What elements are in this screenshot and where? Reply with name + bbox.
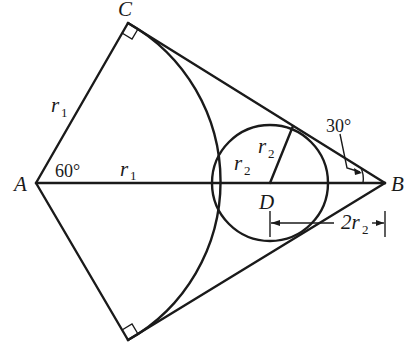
segment-CB <box>128 23 385 183</box>
label-r1-side-sub: 1 <box>61 105 68 120</box>
label-r2-radius-sub: 2 <box>268 146 275 161</box>
label-D: D <box>258 190 274 214</box>
dim-arrowhead-right <box>376 220 384 226</box>
label-A: A <box>12 172 27 196</box>
segment-lower-B <box>128 183 385 340</box>
segment-AC <box>36 23 128 183</box>
label-dim-2r2-sub: 2 <box>362 222 369 237</box>
label-angle-A: 60° <box>55 161 80 181</box>
label-r2-left-sub: 2 <box>244 163 251 178</box>
label-r1-side: r <box>51 93 60 117</box>
label-r2-radius: r <box>258 134 267 158</box>
label-r2-left: r <box>234 151 243 175</box>
geometry-diagram: C A B D 60° 30° r 1 r 1 r 2 r 2 2r 2 <box>0 0 410 345</box>
segment-A-lower <box>36 183 128 340</box>
label-dim-2r2: 2r <box>341 210 361 234</box>
label-C: C <box>118 0 133 21</box>
label-r1-axis: r <box>120 157 129 181</box>
dim-arrowhead-left <box>271 220 280 226</box>
label-angle-B: 30° <box>326 116 351 136</box>
label-B: B <box>391 172 404 196</box>
label-r1-axis-sub: 1 <box>130 168 137 183</box>
